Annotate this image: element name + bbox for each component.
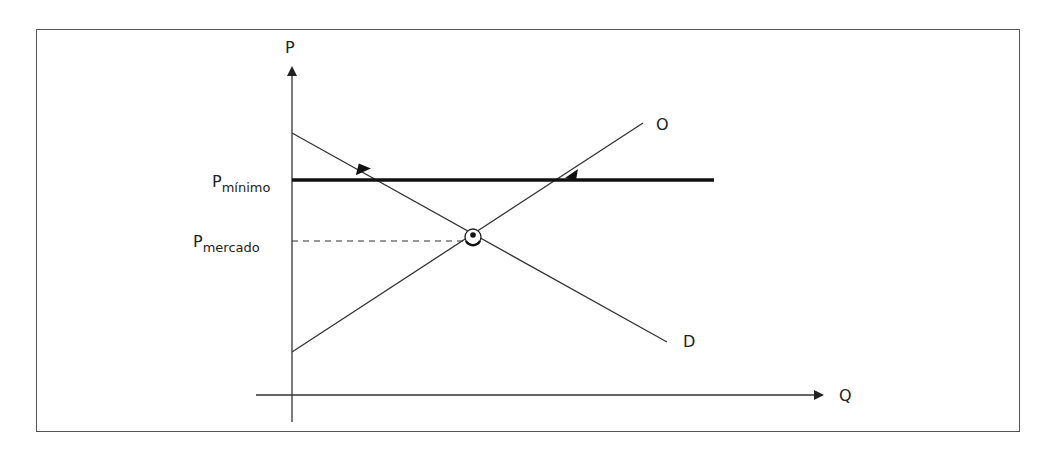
market-price-base: P: [193, 232, 203, 251]
supply-arrow-icon: [565, 169, 578, 180]
equilibrium-point: [470, 232, 476, 238]
market-price-label: Pmercado: [193, 234, 260, 250]
supply-label: O: [656, 117, 669, 133]
price-floor-base: P: [212, 172, 222, 191]
market-price-subscript: mercado: [203, 240, 260, 255]
price-floor-label: Pmínimo: [212, 174, 270, 190]
y-axis-label: P: [285, 40, 295, 56]
supply-demand-diagram: [0, 0, 1057, 456]
x-axis-label: Q: [839, 388, 852, 404]
price-floor-subscript: mínimo: [222, 180, 271, 195]
demand-label: D: [683, 334, 695, 350]
